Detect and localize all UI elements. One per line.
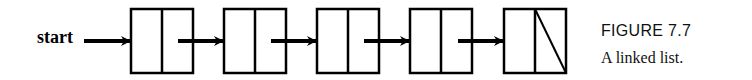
linked-list-diagram bbox=[0, 0, 752, 80]
figure-caption: A linked list. bbox=[601, 49, 683, 67]
list-node-tail bbox=[504, 9, 566, 73]
figure-title: FIGURE 7.7 bbox=[601, 22, 691, 40]
null-pointer-slash bbox=[535, 9, 566, 73]
